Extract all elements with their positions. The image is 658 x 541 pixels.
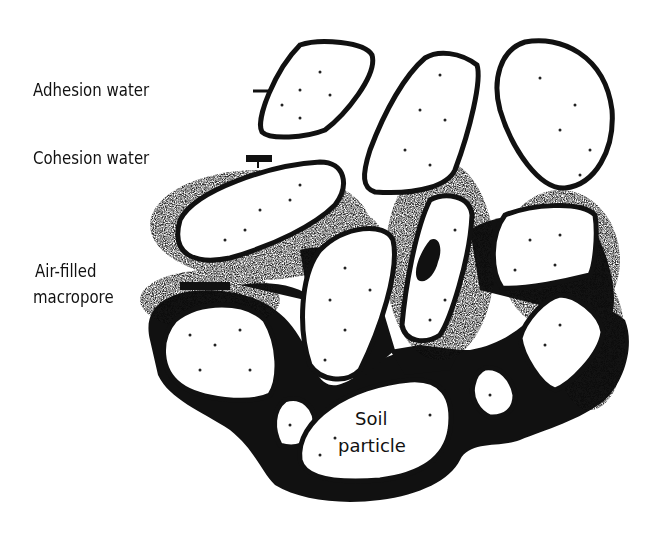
label-particle: particle (338, 435, 406, 456)
macropore-arrow (180, 282, 230, 290)
particle-3 (497, 41, 612, 188)
particle-1 (261, 42, 373, 138)
cohesion-arrow (246, 155, 272, 168)
label-soil: Soil (355, 408, 387, 429)
particle-7 (493, 206, 596, 289)
soil-diagram: Soil particle (0, 0, 658, 541)
particle-11 (472, 368, 515, 417)
particle-8 (164, 305, 277, 400)
